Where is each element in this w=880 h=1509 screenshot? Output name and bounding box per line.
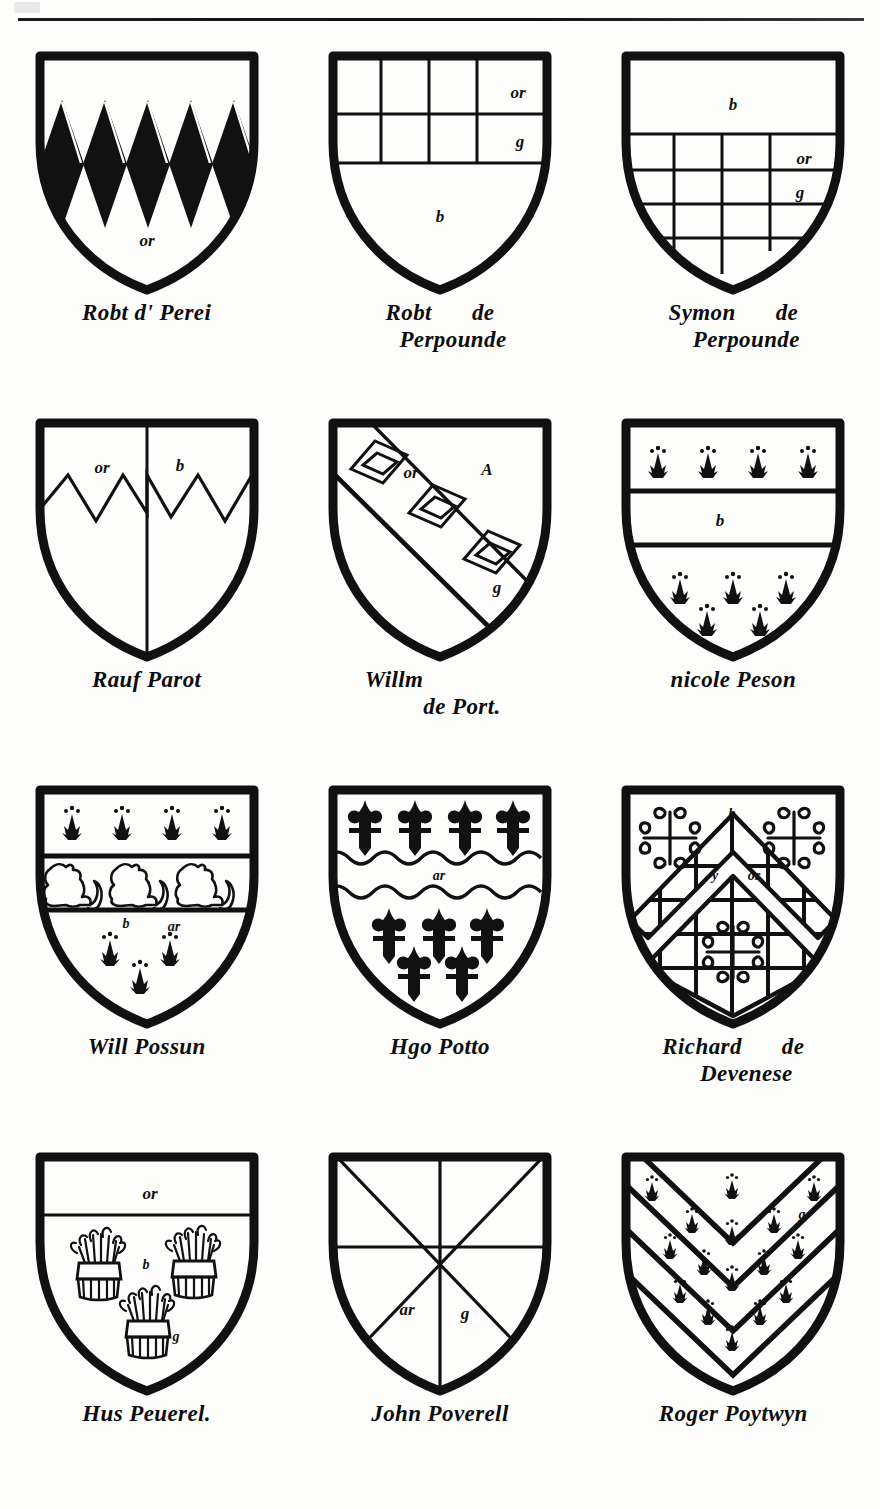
ermine-spots-base: [100, 932, 180, 994]
top-horizontal-rule: [18, 18, 864, 21]
caption-line: de Port.: [302, 694, 578, 720]
caption-line: Rauf Parot: [9, 667, 285, 693]
shield-cell: b or g Symon de Perpounde: [587, 40, 880, 407]
caption-row: Symon de: [668, 300, 798, 326]
ermine-spots-base: [670, 572, 796, 636]
caption-line: nicole Peson: [595, 667, 871, 693]
caption-line: Symon: [668, 300, 735, 326]
shield-outline: [333, 423, 547, 657]
lions-passant: [43, 864, 233, 909]
tincture-label: ar: [399, 1300, 415, 1319]
shield-caption: Richard de Devenese: [595, 1034, 871, 1087]
tincture-label: b: [716, 511, 725, 530]
tincture-label: or: [403, 463, 419, 482]
shield-caption: John Poverell: [302, 1401, 578, 1427]
page-corner-mark: [14, 2, 40, 13]
tincture-label: or: [94, 458, 110, 477]
shield-charges: [40, 100, 256, 228]
caption-line: Roger Poytwyn: [595, 1401, 871, 1427]
shield-cell: or b Rauf Parot: [0, 407, 293, 774]
shield-cell: g Roger Poytwyn: [587, 1141, 880, 1508]
tincture-label: or: [139, 231, 155, 250]
gyronny-lines: [325, 1155, 555, 1395]
tincture-label: or: [797, 149, 813, 168]
caption-row: Richard de: [662, 1034, 804, 1060]
shield-hus-peuerel: or b g: [22, 1147, 272, 1399]
tincture-label: A: [480, 460, 492, 479]
shield-john-poverell: ar g: [315, 1147, 565, 1399]
caption-line: Perpounde: [373, 327, 506, 353]
tincture-label: g: [460, 1304, 470, 1323]
caption-line: de: [782, 1034, 805, 1060]
caption-line: Hgo Potto: [302, 1034, 578, 1060]
shield-will-possun: b ar: [22, 780, 272, 1032]
shield-symon-de-perpounde: b or g: [608, 46, 858, 298]
tincture-label: b: [729, 806, 736, 821]
shield-willm-de-port: or A g: [315, 413, 565, 665]
shield-cell: ar Hgo Potto: [293, 774, 586, 1141]
fleurs-chief: [348, 800, 530, 856]
ermine-spots: [645, 1173, 822, 1351]
lozenges: [40, 100, 256, 228]
shield-hgo-potto: ar: [315, 780, 565, 1032]
tincture-label: b: [142, 1257, 149, 1272]
wheat-garbs: [71, 1226, 220, 1358]
shield-cell: ar g John Poverell: [293, 1141, 586, 1508]
shield-caption: Hgo Potto: [302, 1034, 578, 1060]
shield-caption: Robt de Perpounde: [302, 300, 578, 353]
shield-caption: Willm de Port.: [302, 667, 578, 720]
shield-cell: or A g Willm de Port.: [293, 407, 586, 774]
shield-caption: Will Possun: [9, 1034, 285, 1060]
fleurs-base: [372, 908, 504, 1002]
shield-richard-de-devenese: b y or: [608, 780, 858, 1032]
shield-caption: nicole Peson: [595, 667, 871, 693]
tincture-label: or: [748, 868, 761, 883]
shield-cell: or b g Hus Peuerel.: [0, 1141, 293, 1508]
tincture-label: g: [798, 1207, 806, 1222]
ermine-spots-chief: [648, 446, 818, 478]
ermine-spots-chief: [62, 806, 232, 840]
caption-line: Robt d' Perei: [9, 300, 285, 326]
shield-outline: [626, 56, 840, 290]
caption-line: Willm: [302, 667, 486, 693]
tincture-label: b: [175, 456, 184, 475]
caption-line: Perpounde: [667, 327, 800, 353]
caption-row: Robt de: [386, 300, 495, 326]
shield-robt-d-perei: or: [22, 46, 272, 298]
caption-line: Richard: [662, 1034, 741, 1060]
shield-cell: b y or Richard de Devenese: [587, 774, 880, 1141]
checky-base: [618, 134, 848, 274]
tincture-label: or: [510, 83, 526, 102]
tincture-label: g: [171, 1329, 179, 1344]
shield-caption: Symon de Perpounde: [595, 300, 871, 353]
caption-line: de: [472, 300, 495, 326]
caption-line: Hus Peuerel.: [9, 1401, 285, 1427]
mascles: [351, 441, 520, 573]
manuscript-page: or Robt d' Perei: [0, 0, 880, 1509]
shield-caption: Rauf Parot: [9, 667, 285, 693]
tincture-label: y: [710, 868, 719, 883]
tincture-label: g: [795, 183, 805, 202]
tincture-label: ar: [167, 919, 180, 934]
shield-cell: b ar Will Possun: [0, 774, 293, 1141]
tincture-label: b: [436, 207, 445, 226]
tincture-label: b: [122, 916, 129, 931]
tincture-label: g: [515, 132, 525, 151]
shield-roger-poytwyn: g: [608, 1147, 858, 1399]
tincture-label: ar: [433, 868, 446, 883]
per-pale-indented: [40, 423, 252, 657]
caption-line: Devenese: [674, 1061, 793, 1087]
tincture-label: g: [492, 578, 502, 597]
caption-line: Robt: [386, 300, 432, 326]
shield-nicole-peson: b: [608, 413, 858, 665]
shield-caption: Hus Peuerel.: [9, 1401, 285, 1427]
caption-line: John Poverell: [302, 1401, 578, 1427]
shield-grid: or Robt d' Perei: [0, 40, 880, 1508]
shield-robt-de-perpounde: or g b: [315, 46, 565, 298]
tincture-label: or: [142, 1184, 158, 1203]
shield-cell: or g b Robt de Perpounde: [293, 40, 586, 407]
shield-cell: b nicole Peson: [587, 407, 880, 774]
caption-line: Will Possun: [9, 1034, 285, 1060]
caption-line: de: [776, 300, 799, 326]
tincture-label: b: [729, 95, 738, 114]
